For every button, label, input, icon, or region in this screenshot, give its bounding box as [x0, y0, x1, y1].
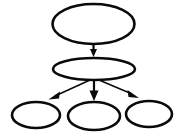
node-leaf-right-shape[interactable]	[126, 101, 172, 127]
edge-mid-to-leaf-left-arrowhead	[49, 92, 61, 100]
edge-mid-to-leaf-right-arrowhead	[128, 90, 140, 98]
edge-mid-to-leaf-right	[99, 80, 139, 98]
edge-mid-to-leaf-right-line	[99, 80, 132, 94]
edge-mid-to-leaf-center	[90, 80, 99, 101]
node-root[interactable]	[53, 4, 135, 44]
diagram-canvas	[0, 0, 184, 137]
edge-root-to-mid-arrowhead	[90, 49, 97, 57]
node-mid-shape[interactable]	[53, 58, 135, 80]
node-leaf-center-shape[interactable]	[68, 102, 120, 130]
node-leaf-center[interactable]	[68, 102, 120, 130]
node-leaf-left[interactable]	[12, 102, 60, 128]
edge-mid-to-leaf-left-line	[55, 80, 90, 96]
node-root-shape[interactable]	[53, 4, 135, 44]
edge-mid-to-leaf-center-arrowhead	[90, 91, 99, 102]
node-leaf-right[interactable]	[126, 101, 172, 127]
node-mid[interactable]	[53, 58, 135, 80]
node-leaf-left-shape[interactable]	[12, 102, 60, 128]
node-group	[12, 4, 172, 130]
edge-mid-to-leaf-left	[49, 80, 91, 100]
diagram-svg	[0, 0, 184, 137]
edge-root-to-mid	[90, 44, 97, 57]
